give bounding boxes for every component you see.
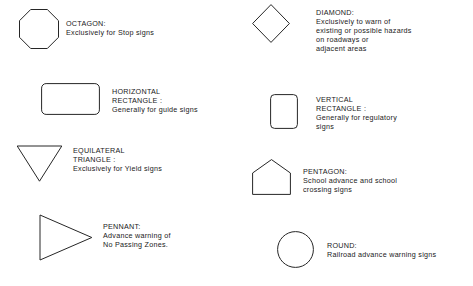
caption-equilateral-triangle: EQUILATERAL TRIANGLE : Exclusively for Y… <box>73 146 162 173</box>
caption-pentagon: PENTAGON: School advance and school cros… <box>303 167 397 194</box>
vertical-rectangle-line-2: Generally for regulatory <box>316 113 397 122</box>
pentagon-line-1: School advance and school <box>303 176 397 185</box>
caption-round: ROUND: Railroad advance warning signs <box>327 241 436 259</box>
pentagon-shape <box>252 159 291 195</box>
sign-shapes-diagram: OCTAGON: Exclusively for Stop signs DIAM… <box>0 0 473 286</box>
pentagon-line-2: crossing signs <box>303 185 397 194</box>
caption-pennant: PENNANT: Advance warning of No Passing Z… <box>103 222 171 249</box>
pennant-shape <box>39 214 93 261</box>
octagon-shape <box>19 9 59 49</box>
diamond-line-1: Exclusively to warn of <box>316 17 412 26</box>
diamond-line-3: on roadways or <box>316 35 412 44</box>
octagon-line-1: Exclusively for Stop signs <box>66 28 154 37</box>
octagon-title: OCTAGON: <box>66 19 154 28</box>
equilateral-triangle-title: EQUILATERAL <box>73 146 162 155</box>
round-title: ROUND: <box>327 241 436 250</box>
horizontal-rectangle-shape <box>41 83 100 115</box>
equilateral-triangle-line-2: Exclusively for Yield signs <box>73 164 162 173</box>
horizontal-rectangle-line-2: Generally for guide signs <box>112 105 198 114</box>
round-line-1: Railroad advance warning signs <box>327 250 436 259</box>
pennant-title: PENNANT: <box>103 222 171 231</box>
equilateral-triangle-line-1: TRIANGLE : <box>73 155 162 164</box>
diamond-shape <box>252 4 290 43</box>
diamond-line-2: existing or possible hazards <box>316 26 412 35</box>
diamond-line-4: adjacent areas <box>316 44 412 53</box>
caption-horizontal-rectangle: HORIZONTAL RECTANGLE : Generally for gui… <box>112 87 198 114</box>
caption-vertical-rectangle: VERTICAL RECTANGLE : Generally for regul… <box>316 95 397 131</box>
diamond-title: DIAMOND: <box>316 8 412 17</box>
round-shape <box>277 231 314 268</box>
pennant-line-2: No Passing Zones. <box>103 240 171 249</box>
vertical-rectangle-line-1: RECTANGLE : <box>316 104 397 113</box>
pennant-line-1: Advance warning of <box>103 231 171 240</box>
caption-octagon: OCTAGON: Exclusively for Stop signs <box>66 19 154 37</box>
vertical-rectangle-title: VERTICAL <box>316 95 397 104</box>
vertical-rectangle-line-3: signs <box>316 122 397 131</box>
caption-diamond: DIAMOND: Exclusively to warn of existing… <box>316 8 412 53</box>
pentagon-title: PENTAGON: <box>303 167 397 176</box>
horizontal-rectangle-title: HORIZONTAL <box>112 87 198 96</box>
equilateral-triangle-shape <box>16 145 63 182</box>
vertical-rectangle-shape <box>270 94 298 129</box>
horizontal-rectangle-line-1: RECTANGLE : <box>112 96 198 105</box>
